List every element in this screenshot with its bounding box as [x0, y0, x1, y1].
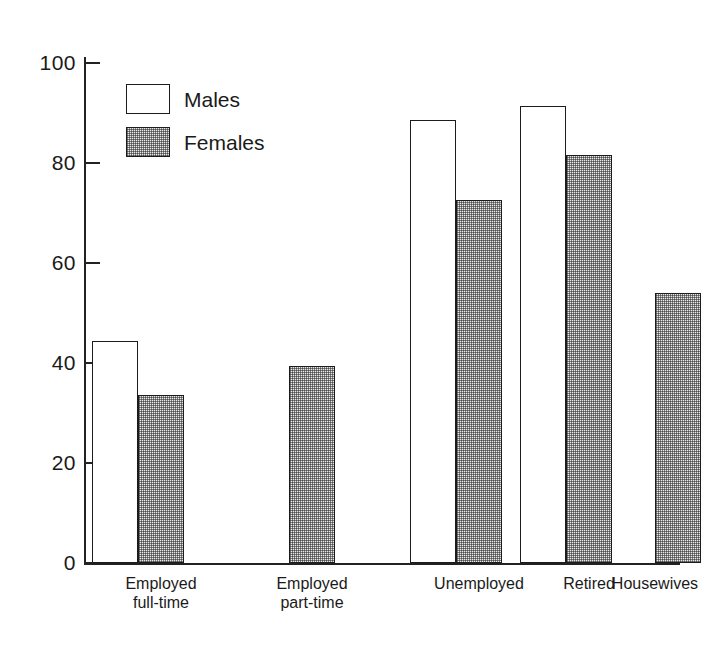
- y-tick-label: 0: [14, 552, 76, 573]
- x-axis-label-0: Employed full-time: [86, 574, 236, 612]
- bar-males-3: [520, 106, 566, 563]
- y-tick-label: 100: [14, 52, 76, 73]
- y-tick-label-wrap: 40: [0, 352, 76, 373]
- y-tick-label-wrap: 20: [0, 452, 76, 473]
- y-tick-label: 80: [14, 152, 76, 173]
- y-tick-label: 60: [14, 252, 76, 273]
- y-tick-label-wrap: 60: [0, 252, 76, 273]
- bar-chart: 100806040200 Males Females Employed full…: [0, 0, 715, 646]
- plot-area: [85, 63, 685, 563]
- bar-females-0: [138, 395, 184, 564]
- y-tick-label-wrap: 100: [0, 52, 76, 73]
- y-tick-label-wrap: 80: [0, 152, 76, 173]
- y-tick-label: 40: [14, 352, 76, 373]
- bar-males-0: [92, 341, 138, 564]
- bar-females-1: [289, 366, 335, 564]
- x-axis-label-4: Housewives: [580, 574, 715, 593]
- bar-females-4: [655, 293, 701, 563]
- x-axis-label-1: Employed part-time: [237, 574, 387, 612]
- x-axis-line: [84, 563, 680, 565]
- bar-males-2: [410, 120, 456, 563]
- bar-females-2: [456, 200, 502, 564]
- y-tick-label-wrap: 0: [0, 552, 76, 573]
- y-tick-label: 20: [14, 452, 76, 473]
- bar-females-3: [566, 155, 612, 563]
